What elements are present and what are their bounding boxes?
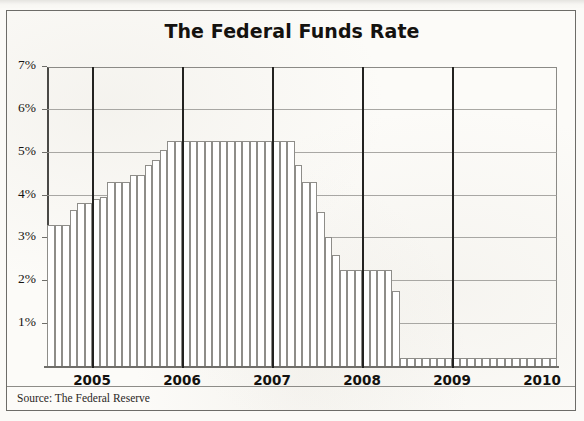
bar — [175, 141, 183, 366]
bar — [70, 210, 78, 366]
year-divider — [182, 67, 184, 368]
year-divider — [452, 67, 454, 368]
scan-artifact — [0, 0, 584, 9]
bar — [115, 182, 123, 366]
y-axis-tick-label: 5% — [0, 143, 36, 159]
bar — [197, 141, 205, 366]
bar — [512, 358, 520, 366]
bar — [287, 141, 295, 366]
year-divider — [92, 67, 94, 368]
bar — [145, 165, 153, 366]
bar — [107, 182, 115, 366]
gridline — [47, 109, 557, 110]
bar — [317, 212, 325, 366]
bar — [505, 358, 513, 366]
bar — [242, 141, 250, 366]
bar — [190, 141, 198, 366]
bar — [47, 225, 55, 366]
bar — [467, 358, 475, 366]
bar — [122, 182, 130, 366]
bar — [392, 291, 400, 366]
bar — [460, 358, 468, 366]
bar — [347, 270, 355, 366]
bar — [257, 141, 265, 366]
bar — [62, 225, 70, 366]
y-tick-mark — [42, 109, 47, 110]
bar — [160, 150, 168, 366]
bar — [212, 141, 220, 366]
gridline — [47, 152, 557, 153]
bar — [370, 270, 378, 366]
bar — [295, 165, 303, 366]
bar — [235, 141, 243, 366]
y-axis-tick-label: 2% — [0, 271, 36, 287]
year-divider — [272, 67, 274, 368]
bar — [100, 197, 108, 366]
source-note: Source: The Federal Reserve — [17, 392, 150, 404]
bar — [400, 358, 408, 366]
bar — [325, 237, 333, 366]
bar — [430, 358, 438, 366]
bar — [310, 182, 318, 366]
bar — [490, 358, 498, 366]
bar — [302, 182, 310, 366]
y-tick-mark — [42, 195, 47, 196]
bar — [415, 358, 423, 366]
bar — [550, 358, 558, 366]
y-axis-tick-label: 7% — [0, 57, 36, 73]
bar — [542, 358, 550, 366]
bar — [475, 358, 483, 366]
bar — [437, 358, 445, 366]
bar — [77, 203, 85, 366]
source-divider — [7, 386, 575, 387]
bar — [205, 141, 213, 366]
y-axis-tick-label: 6% — [0, 100, 36, 116]
bar — [527, 358, 535, 366]
year-divider — [362, 67, 364, 368]
y-axis-tick-label: 4% — [0, 186, 36, 202]
x-axis-line — [44, 366, 559, 368]
bar — [520, 358, 528, 366]
bar — [265, 141, 273, 366]
y-tick-mark — [42, 66, 47, 67]
bar — [152, 160, 160, 366]
bar — [340, 270, 348, 366]
bar — [497, 358, 505, 366]
bar — [55, 225, 63, 366]
bar — [377, 270, 385, 366]
bar — [85, 203, 93, 366]
bar — [130, 175, 138, 366]
bar — [227, 141, 235, 366]
bar — [332, 255, 340, 366]
y-axis-tick-label: 1% — [0, 314, 36, 330]
bar — [407, 358, 415, 366]
bar — [280, 141, 288, 366]
bar — [385, 270, 393, 366]
bar — [445, 358, 453, 366]
bar — [220, 141, 228, 366]
bar — [355, 270, 363, 366]
y-tick-mark — [42, 152, 47, 153]
bar — [167, 141, 175, 366]
chart-page: The Federal Funds Rate 1%2%3%4%5%6%7% 20… — [0, 0, 584, 421]
bar — [535, 358, 543, 366]
bar — [482, 358, 490, 366]
bar — [137, 175, 145, 366]
bar — [250, 141, 258, 366]
bar — [422, 358, 430, 366]
chart-title: The Federal Funds Rate — [0, 20, 584, 42]
y-axis-tick-label: 3% — [0, 228, 36, 244]
